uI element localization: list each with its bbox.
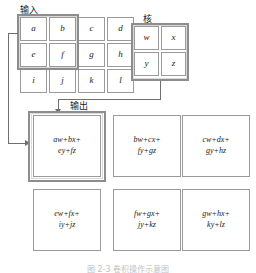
kernel-cell-1-1: z [161,52,186,76]
kernel-connector-vertical [160,81,161,99]
output-cell-1-1-line2: jy+kz [138,220,156,231]
output-cell-0-1-line1: bw+cx+ [133,135,160,146]
output-cell-1-2: gw+hx+ ky+lz [182,189,250,251]
output-cell-1-0: ew+fx+ iy+jz [33,189,101,251]
output-cell-1-2-line2: ky+lz [207,220,225,231]
kernel-cell-0-0: w [134,26,159,50]
output-cell-0-2-line2: gy+hz [206,146,226,157]
input-connector-vertical [8,33,9,143]
figure-caption: 图 2-3 卷积操作示意图 [0,263,256,273]
output-cell-0-0: aw+bx+ ey+fz [33,115,101,177]
output-cell-0-2: cw+dx+ gy+hz [182,115,250,177]
input-cell-1-1: f [49,43,76,67]
input-cell-0-0: a [20,17,47,41]
kernel-cell-0-1: x [161,26,186,50]
convolution-diagram: 输入 a b c d e f g h i j k l 核 w x y z 输出 … [0,0,256,273]
kernel-to-output-arrow-icon [55,109,61,114]
input-label: 输入 [20,3,38,16]
output-cell-1-2-line1: gw+hx+ [202,209,230,220]
input-connector-out [8,33,18,34]
input-cell-2-0: i [20,69,47,93]
input-cell-0-3: d [107,17,134,41]
kernel-label: 核 [143,12,152,25]
output-cell-1-0-line1: ew+fx+ [54,209,79,220]
output-cell-0-1: bw+cx+ fy+gz [113,115,181,177]
input-cell-2-3: l [107,69,134,93]
output-cell-1-1: fw+gx+ jy+kz [113,189,181,251]
input-cell-1-3: h [107,43,134,67]
output-cell-0-2-line1: cw+dx+ [202,135,229,146]
input-connector-in [8,143,26,144]
output-cell-0-1-line2: fy+gz [138,146,156,157]
input-cell-0-2: c [78,17,105,41]
output-cell-1-1-line1: fw+gx+ [134,209,160,220]
kernel-cell-1-0: y [134,52,159,76]
output-cell-0-0-line2: ey+fz [58,146,76,157]
input-cell-1-2: g [78,43,105,67]
input-cell-0-1: b [49,17,76,41]
input-cell-2-1: j [49,69,76,93]
output-label: 输出 [70,99,88,112]
input-cell-2-2: k [78,69,105,93]
input-cell-1-0: e [20,43,47,67]
input-to-output-arrow-icon [25,140,30,146]
output-cell-0-0-line1: aw+bx+ [53,135,81,146]
output-cell-1-0-line2: iy+jz [59,220,76,231]
